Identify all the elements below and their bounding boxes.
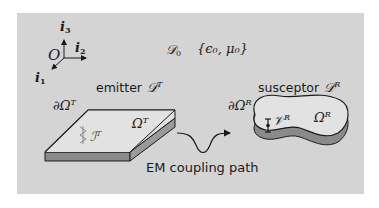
emitter-region-label: ΩT (132, 117, 148, 130)
emitter-plate (45, 110, 175, 161)
emitter-source-label: ℐT (90, 130, 101, 143)
axis-i3-label: i3 (60, 20, 71, 34)
susceptor-body (254, 95, 348, 145)
susceptor-region-label: ΩR (314, 111, 331, 124)
axis-i1-label: i1 (35, 71, 46, 85)
axis-i2-label: i2 (75, 41, 86, 55)
coupling-wave-icon (177, 133, 230, 153)
emitter-boundary-label: ∂ΩT (53, 99, 76, 112)
domain-label: 𝒟0 (166, 43, 181, 58)
domain-params: {ϵ₀, μ₀} (197, 42, 248, 55)
susceptor-boundary-label: ∂ΩR (228, 99, 252, 112)
origin-label: O (48, 48, 60, 63)
coupling-label: EM coupling path (146, 161, 259, 174)
susceptor-title: susceptor 𝒟R (258, 79, 340, 95)
emitter-title: emitter 𝒟T (96, 79, 162, 95)
susceptor-source-label: 𝒱R (273, 114, 290, 127)
